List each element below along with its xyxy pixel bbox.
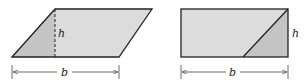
rectangle-figure: h b xyxy=(181,9,299,79)
rectangle-base-label: b xyxy=(229,66,236,79)
parallelogram-figure: h b xyxy=(12,9,152,79)
parallelogram-height-label: h xyxy=(58,27,65,40)
rectangle-height-label: h xyxy=(292,27,299,40)
parallelogram-light-region xyxy=(55,9,152,57)
parallelogram-base-label: b xyxy=(61,66,68,79)
area-diagram: h b h b xyxy=(0,0,304,83)
